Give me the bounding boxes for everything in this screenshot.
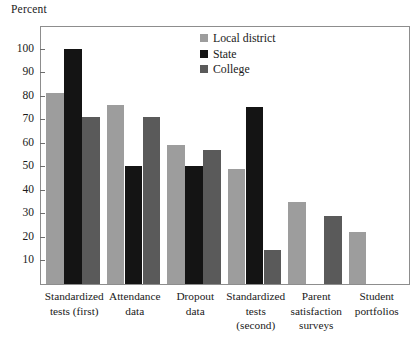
bar (349, 232, 367, 284)
y-tick-mark (40, 260, 45, 261)
legend-item: Local district (200, 31, 330, 46)
bar (125, 166, 143, 284)
y-tick-label: 20 (8, 231, 34, 243)
y-tick-label: 60 (8, 137, 34, 149)
y-tick-label: 10 (8, 254, 34, 266)
y-tick-mark (40, 119, 45, 120)
y-tick-mark (40, 213, 45, 214)
bar (82, 117, 100, 284)
bar (46, 93, 64, 284)
bar (143, 117, 161, 284)
bar (185, 166, 203, 284)
x-axis-category-labels: Standardizedtests (first)AttendancedataD… (41, 289, 409, 349)
bar-chart: Percent 102030405060708090100 Standardiz… (0, 0, 417, 349)
bar-group (46, 27, 103, 284)
legend-swatch (200, 34, 208, 42)
bar (246, 107, 264, 284)
legend-swatch (200, 65, 208, 73)
bar-group (349, 27, 406, 284)
y-tick-mark (40, 72, 45, 73)
y-tick-label: 90 (8, 66, 34, 78)
y-tick-mark (40, 96, 45, 97)
y-tick-mark (40, 237, 45, 238)
y-tick-mark (40, 190, 45, 191)
bar (167, 145, 185, 284)
legend-item: College (200, 62, 330, 77)
bar (264, 250, 282, 284)
bar (203, 150, 221, 284)
legend-label: State (213, 48, 237, 60)
bar-group (107, 27, 164, 284)
legend-item: State (200, 47, 330, 62)
legend-label: College (213, 63, 250, 75)
bar (64, 49, 82, 285)
bar (324, 216, 342, 284)
chart-legend: Local districtStateCollege (200, 31, 330, 78)
y-tick-label: 70 (8, 113, 34, 125)
y-tick-mark (40, 166, 45, 167)
y-tick-label: 40 (8, 184, 34, 196)
y-tick-label: 30 (8, 207, 34, 219)
legend-label: Local district (213, 32, 276, 44)
x-category-label: Studentportfolios (341, 289, 414, 318)
y-axis-tick-labels: 102030405060708090100 (0, 0, 34, 349)
bar (228, 169, 246, 284)
bar (107, 105, 125, 284)
y-tick-mark (40, 49, 45, 50)
y-tick-label: 50 (8, 160, 34, 172)
bar (288, 202, 306, 284)
y-tick-label: 100 (8, 43, 34, 55)
legend-swatch (200, 50, 208, 58)
y-tick-label: 80 (8, 90, 34, 102)
y-tick-mark (40, 143, 45, 144)
